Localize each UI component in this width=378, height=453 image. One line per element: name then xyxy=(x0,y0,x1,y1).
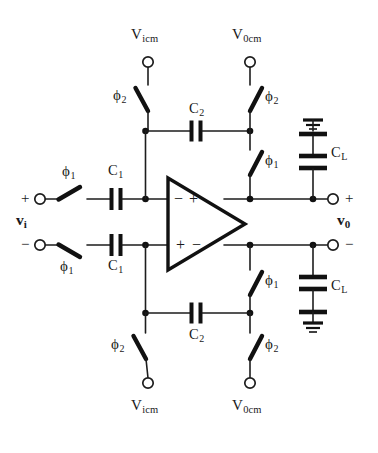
label-input-minus-sign: − xyxy=(21,237,29,252)
label-cap-cl-bottom: CL xyxy=(331,278,347,293)
label-opamp-top-minus: − xyxy=(174,191,184,207)
label-output-port-v0: v0 xyxy=(337,212,350,228)
circuit-schematic-canvas xyxy=(0,0,378,453)
label-switch-top-left-phi2: ϕ2 xyxy=(113,88,126,103)
branch-input-plus xyxy=(35,131,168,210)
label-output-minus-sign: − xyxy=(345,237,353,252)
terminal-input-plus[interactable] xyxy=(35,194,45,204)
label-cap-cl-top: CL xyxy=(331,145,347,160)
branch-bottom-left-vicm xyxy=(134,313,154,388)
branch-bottom-feedback-c2 xyxy=(146,303,251,324)
terminal-input-minus[interactable] xyxy=(35,240,45,250)
branch-top-right-phi1 xyxy=(250,131,262,199)
branch-bottom-right-v0cm xyxy=(245,313,262,388)
label-v0cm-bottom: V0cm xyxy=(232,398,261,413)
branch-bottom-right-phi1 xyxy=(247,245,262,316)
label-switch-bottom-right-phi1: ϕ1 xyxy=(265,273,278,288)
label-switch-input-minus-phi1: ϕ1 xyxy=(60,259,73,274)
load-cap-top xyxy=(299,120,327,199)
label-opamp-bottom-minus: − xyxy=(192,237,202,253)
label-opamp-bottom-plus: + xyxy=(176,237,186,253)
wire-bottom-left-phi2-to-terminal xyxy=(146,359,148,378)
label-cap-c1-top: C1 xyxy=(108,163,123,178)
circuit-diagram: Vicm V0cm Vicm V0cm ϕ2 ϕ2 ϕ1 ϕ1 ϕ1 ϕ1 ϕ2… xyxy=(0,0,378,453)
label-switch-bottom-left-phi2: ϕ2 xyxy=(111,337,124,352)
node-output-top-feedback-tap xyxy=(247,196,254,203)
label-switch-top-right-phi2: ϕ2 xyxy=(265,89,278,104)
branch-top-left-vicm xyxy=(136,57,154,135)
switch-blade-bottom-left-phi2[interactable] xyxy=(134,336,147,359)
branch-input-minus xyxy=(35,234,168,316)
switch-blade-bottom-right-phi2[interactable] xyxy=(250,336,262,359)
terminal-v0cm-top[interactable] xyxy=(245,57,255,67)
switch-blade-top-right-phi2[interactable] xyxy=(250,88,262,111)
switch-blade-input-minus-phi1[interactable] xyxy=(59,245,81,258)
terminal-v0cm-bottom[interactable] xyxy=(245,378,255,388)
label-output-plus-sign: + xyxy=(345,191,353,206)
label-switch-bottom-right-phi2: ϕ2 xyxy=(265,337,278,352)
terminal-vicm-bottom[interactable] xyxy=(143,378,153,388)
label-input-port-vi: vi xyxy=(16,212,27,228)
label-vicm-bottom: Vicm xyxy=(131,398,158,413)
label-vicm-top: Vicm xyxy=(131,27,158,42)
label-cap-c2-top: C2 xyxy=(189,101,204,116)
switch-blade-bottom-right-phi1[interactable] xyxy=(250,272,262,295)
label-cap-c2-bottom: C2 xyxy=(189,327,204,342)
load-cap-bottom xyxy=(299,245,327,332)
terminal-vicm-top[interactable] xyxy=(143,57,153,67)
label-input-plus-sign: + xyxy=(21,191,29,206)
label-v0cm-top: V0cm xyxy=(232,27,261,42)
label-cap-c1-bottom: C1 xyxy=(108,258,123,273)
terminal-output-minus[interactable] xyxy=(328,240,338,250)
label-switch-input-plus-phi1: ϕ1 xyxy=(62,164,75,179)
switch-blade-top-right-phi1[interactable] xyxy=(250,152,262,175)
branch-top-feedback-c2 xyxy=(146,121,254,142)
branch-top-right-v0cm xyxy=(245,57,262,131)
label-switch-top-right-phi1: ϕ1 xyxy=(265,153,278,168)
terminal-output-plus[interactable] xyxy=(328,194,338,204)
label-opamp-top-plus: + xyxy=(189,191,199,207)
switch-blade-input-plus-phi1[interactable] xyxy=(59,187,81,200)
switch-blade-top-left-phi2[interactable] xyxy=(136,88,149,111)
